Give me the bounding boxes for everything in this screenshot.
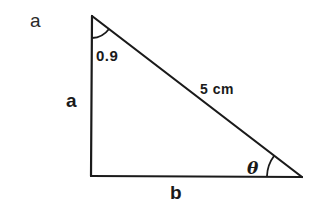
hypotenuse-line	[92, 16, 302, 177]
vertical-side-line	[91, 16, 92, 176]
triangle-diagram	[0, 0, 314, 214]
horizontal-side-label: b	[170, 183, 182, 202]
horizontal-side-line	[91, 176, 302, 177]
top-angle-label: 0.9	[96, 48, 118, 63]
top-angle-arc	[92, 29, 109, 38]
theta-angle-arc	[267, 156, 274, 176]
vertical-side-label: a	[66, 91, 77, 110]
theta-angle-label: θ	[247, 160, 258, 177]
hypotenuse-label: 5 cm	[200, 82, 234, 96]
panel-label: a	[30, 11, 41, 30]
